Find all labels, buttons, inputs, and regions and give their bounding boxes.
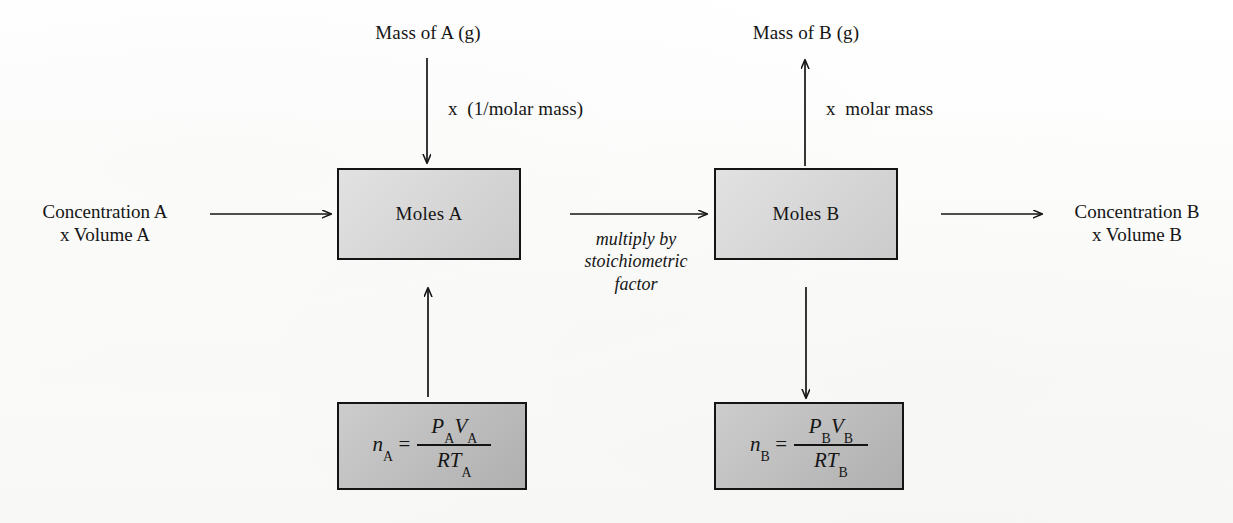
formula-a-fraction: PAVA RTA [417,414,491,476]
box-moles-b-label: Moles B [772,203,839,225]
formula-b-n-sub: B [760,449,769,464]
formula-n-a: nA = PAVA RTA [373,415,492,477]
formula-b-fraction: PBVB RTB [794,414,868,476]
box-moles-a-label: Moles A [395,203,462,225]
label-x-molar-mass: x molar mass [826,97,933,120]
label-stoichiometric-factor: multiply by stoichiometric factor [556,228,716,295]
formula-a-denominator: RTA [429,446,480,476]
box-formula-moles-b[interactable]: nB = PBVB RTB [714,402,904,490]
formula-a-numerator: PAVA [423,414,485,444]
formula-a-p: P [431,414,444,438]
formula-a-t-sub: A [462,465,472,480]
formula-b-p-sub: B [822,431,831,446]
label-concentration-a-line2: x Volume A [15,223,195,246]
formula-b-lhs: nB = [750,432,787,460]
stoichiometry-flowchart: Mass of A (g) Mass of B (g) x (1/molar m… [0,0,1233,523]
formula-b-p: P [809,414,822,438]
formula-b-v: V [831,414,844,438]
formula-a-t: T [450,448,462,472]
label-concentration-b-line1: Concentration B [1048,200,1226,223]
label-concentration-b-line2: x Volume B [1048,223,1226,246]
formula-b-v-sub: B [844,431,853,446]
formula-a-n: n [373,432,384,456]
formula-a-lhs: nA = [373,432,411,460]
formula-a-n-sub: A [383,449,393,464]
box-moles-b[interactable]: Moles B [714,168,898,260]
formula-b-t: T [827,448,839,472]
formula-b-equals-sign: = [775,432,787,456]
label-mass-of-b: Mass of B (g) [746,21,866,44]
label-x-one-over-molar-mass: x (1/molar mass) [448,97,583,120]
formula-b-r: R [814,448,827,472]
formula-b-denominator: RTB [806,446,856,476]
formula-n-b: nB = PBVB RTB [750,415,868,477]
label-concentration-b: Concentration B x Volume B [1048,200,1226,246]
formula-a-v-sub: A [467,431,477,446]
label-concentration-a-line1: Concentration A [15,200,195,223]
formula-b-n: n [750,432,761,456]
stoichiometric-line-1: multiply by [556,228,716,250]
stoichiometric-line-2: stoichiometric [556,250,716,272]
label-concentration-a: Concentration A x Volume A [15,200,195,246]
formula-a-r: R [437,448,450,472]
formula-a-equals-sign: = [399,432,411,456]
stoichiometric-line-3: factor [556,273,716,295]
box-formula-moles-a[interactable]: nA = PAVA RTA [337,402,527,490]
box-moles-a[interactable]: Moles A [337,168,521,260]
formula-a-p-sub: A [444,431,454,446]
label-mass-of-a: Mass of A (g) [368,21,488,44]
formula-a-v: V [454,414,467,438]
formula-b-t-sub: B [839,465,848,480]
formula-b-numerator: PBVB [801,414,862,444]
